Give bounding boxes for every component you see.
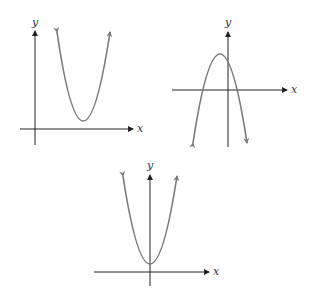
y-axis-label: y: [31, 16, 39, 29]
parabola-figure: y x y x y x: [0, 0, 313, 294]
y-axis-label: y: [224, 16, 232, 29]
y-axis-label: y: [146, 159, 154, 172]
parabola-curve: [193, 54, 247, 143]
graph-2: y x: [172, 16, 298, 147]
x-axis-label: x: [213, 265, 220, 278]
x-axis-label: x: [137, 122, 144, 135]
parabola-curve: [57, 32, 110, 121]
x-axis-label: x: [291, 83, 298, 96]
graph-1: y x: [20, 16, 144, 145]
graph-3: y x: [94, 159, 220, 286]
